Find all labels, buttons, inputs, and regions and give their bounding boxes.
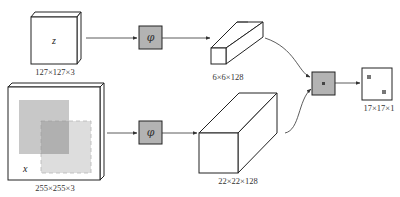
- search-input-x: x 255×255×3: [8, 83, 104, 193]
- exemplar-top-face: [31, 12, 81, 17]
- phi-symbol-bottom: φ: [147, 126, 155, 139]
- search-feature-size-label: 22×22×128: [218, 176, 257, 186]
- exemplar-feature-front: [211, 48, 226, 64]
- search-side-face: [100, 83, 104, 180]
- search-symbol: x: [22, 163, 28, 174]
- search-feature-map: 22×22×128: [199, 93, 277, 186]
- arrow-search-to-correlation: [285, 89, 311, 133]
- score-map-box: [362, 68, 392, 100]
- exemplar-input-z: z 127×127×3: [31, 12, 81, 77]
- exemplar-side-face: [77, 12, 81, 64]
- exemplar-feature-size-label: 6×6×128: [213, 72, 244, 82]
- embedding-phi-bottom: φ: [139, 121, 162, 144]
- exemplar-symbol: z: [51, 35, 56, 46]
- cross-correlation-op: [312, 72, 335, 95]
- score-peak-2: [382, 90, 386, 94]
- score-map-size-label: 17×17×1: [364, 103, 395, 113]
- search-size-label: 255×255×3: [35, 183, 74, 193]
- exemplar-size-label: 127×127×3: [35, 67, 74, 77]
- search-top-face: [8, 83, 104, 87]
- score-map-output: 17×17×1: [362, 68, 394, 113]
- phi-symbol-top: φ: [147, 31, 155, 44]
- score-peak-1: [367, 75, 371, 79]
- arrow-exemplar-to-correlation: [265, 38, 310, 77]
- exemplar-feature-map: 6×6×128: [211, 22, 263, 82]
- search-feature-front: [199, 133, 238, 173]
- search-patch-overlap: [41, 121, 69, 154]
- correlation-star-icon: [322, 82, 325, 85]
- embedding-phi-top: φ: [139, 26, 162, 49]
- siamese-network-diagram: z 127×127×3 x 255×255×3 φ φ 6×6×128: [0, 0, 400, 197]
